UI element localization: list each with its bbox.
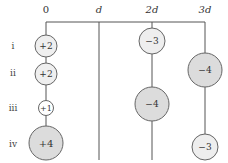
charge-value: +4	[39, 138, 54, 149]
charge-value: −4	[145, 99, 159, 109]
charge-ii-0: +2	[35, 63, 57, 85]
axis-label-2d: 2d	[145, 4, 159, 15]
axis-label-0: 0	[43, 4, 49, 15]
charge-value: −3	[198, 142, 212, 152]
axis-label-3d: 3d	[199, 4, 212, 15]
charge-i-0: +2	[35, 35, 57, 57]
charge-value: +2	[39, 69, 52, 79]
axis-label-d: d	[96, 4, 102, 15]
charge-i-2d: −3	[139, 28, 165, 54]
charge-iii-2d: −4	[135, 87, 169, 121]
charge-value: −3	[145, 36, 159, 46]
charge-value: +2	[39, 41, 52, 51]
charge-value: +1	[40, 104, 52, 113]
charge-value: −4	[198, 65, 212, 75]
charge-iii-0: +1	[39, 101, 54, 116]
charge-iv-3d: −3	[192, 134, 218, 160]
row-label-i: i	[12, 41, 15, 51]
row-label-iii: iii	[9, 103, 18, 113]
row-label-iv: iv	[9, 139, 18, 149]
charge-ii-3d: −4	[188, 53, 222, 87]
row-label-ii: ii	[10, 68, 16, 78]
charge-iv-0: +4	[29, 126, 63, 160]
charge-diagram: 0 d 2d 3d i ii iii iv +2 +2 +1 +4 −3 −4 …	[0, 0, 228, 163]
